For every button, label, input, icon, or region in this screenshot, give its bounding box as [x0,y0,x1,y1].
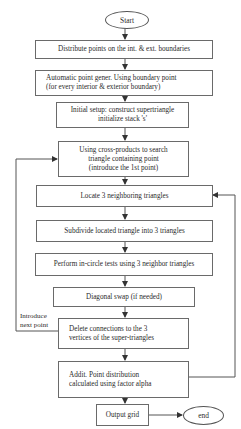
step-label: Initial setup: construct supertriangle i… [71,106,175,124]
loop-label-introduce-next-point: Introduce next point [20,312,48,330]
step-label: Output grid [106,411,139,420]
step-label: Diagonal swap (if needed) [86,293,162,302]
step-label: Automatic point gener. Using boundary po… [46,74,177,92]
start-terminal: Start [105,11,149,29]
step-label: Using cross-products to search triangle … [79,146,167,173]
step-label: Distribute points on the int. & ext. bou… [58,45,190,54]
step-label: Delete connections to the 3 vertices of … [69,325,154,343]
step-output-grid: Output grid [96,404,149,426]
step-cross-products: Using cross-products to search triangle … [58,141,189,177]
step-auto-gen: Automatic point gener. Using boundary po… [35,70,213,96]
step-locate: Locate 3 neighboring triangles [36,185,213,207]
step-initial-setup: Initial setup: construct supertriangle i… [56,102,189,128]
step-subdivide: Subdivide located triangle into 3 triang… [36,220,213,242]
step-label: Addit. Point distribution calculated usi… [69,371,151,389]
step-addit-distribution: Addit. Point distribution calculated usi… [58,361,189,398]
step-label: Subdivide located triangle into 3 triang… [64,227,184,236]
step-delete-connections: Delete connections to the 3 vertices of … [58,318,189,349]
step-label: Perform in-circle tests using 3 neighbor… [54,260,195,269]
step-label: Locate 3 neighboring triangles [80,192,168,201]
step-distribute: Distribute points on the int. & ext. bou… [35,40,213,59]
step-in-circle: Perform in-circle tests using 3 neighbor… [35,253,213,276]
end-terminal: end [183,406,224,425]
start-label: Start [120,16,134,25]
step-diagonal-swap: Diagonal swap (if needed) [53,287,195,307]
end-label: end [198,411,209,420]
